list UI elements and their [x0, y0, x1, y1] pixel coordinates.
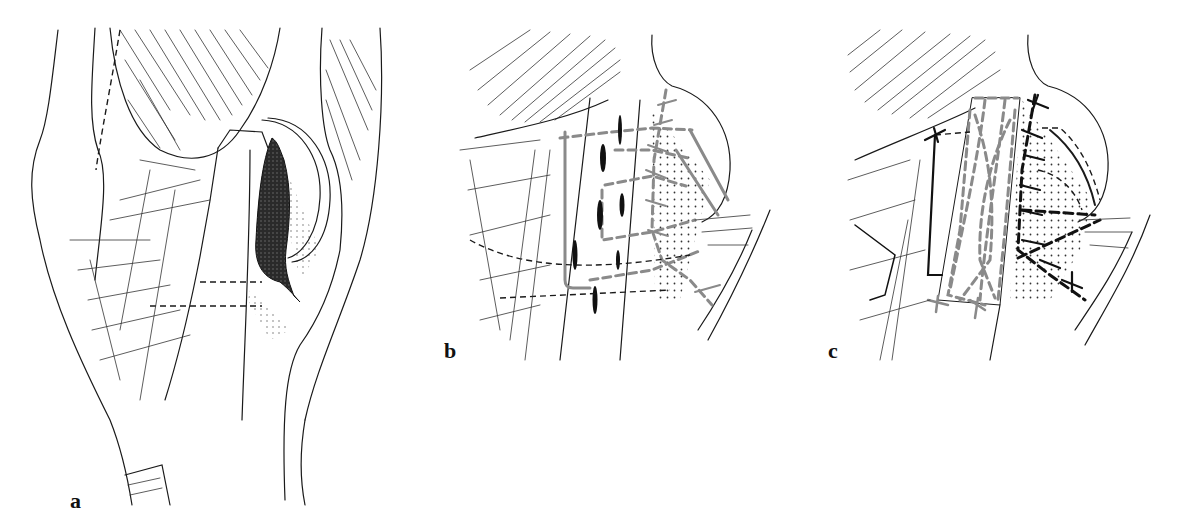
panel-a-illustration [0, 0, 400, 518]
panel-label-c: c [828, 340, 838, 362]
panel-c-illustration [810, 0, 1186, 370]
panel-label-b: b [444, 340, 456, 362]
panel-b-illustration [440, 0, 800, 370]
panel-label-a: a [70, 490, 81, 512]
repair-stage-b-drawing [440, 0, 800, 370]
repair-stage-c-drawing [810, 0, 1186, 370]
knee-lateral-view-drawing [0, 0, 400, 518]
